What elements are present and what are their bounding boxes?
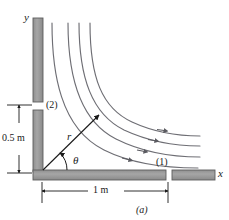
horizontal-dimension-label: 1 m (93, 185, 108, 195)
horizontal-wall-outer (172, 170, 215, 180)
polar-coordinate-group (43, 115, 99, 170)
horizontal-wall-inner (33, 170, 166, 180)
inlet-port-label: (1) (156, 157, 168, 167)
streamline-2 (68, 23, 200, 157)
outlet-port-label: (2) (46, 100, 58, 110)
streamline-3 (79, 23, 200, 146)
radius-label: r (67, 131, 71, 142)
wall-group (33, 18, 215, 180)
figure-panel: y x (2) (1) 0.5 m 1 m r θ (a) (0, 0, 229, 220)
streamline-1 (52, 23, 198, 168)
figure-caption: (a) (136, 205, 148, 215)
figure-canvas (0, 0, 229, 220)
x-axis-label: x (218, 168, 223, 179)
vertical-dimension-label: 0.5 m (2, 133, 25, 143)
radius-vector (43, 115, 99, 170)
vertical-wall-lower (33, 110, 43, 172)
theta-arc (60, 153, 67, 170)
vertical-wall-upper (33, 18, 43, 102)
streamline-group (52, 23, 200, 168)
streamline-4 (90, 23, 200, 136)
theta-label: θ (73, 155, 78, 166)
flow-arrow-icon-3 (148, 140, 157, 142)
y-axis-label: y (24, 12, 29, 23)
